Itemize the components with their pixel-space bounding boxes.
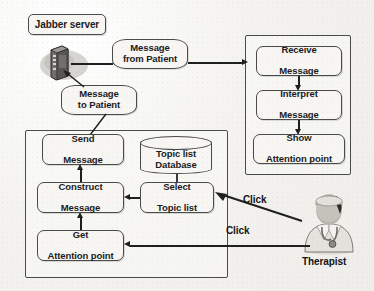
diagram-canvas: Jabber server Message from Patient <box>0 0 374 291</box>
send-message-line1: Send <box>63 134 102 145</box>
click-upper-label: Click <box>243 194 266 205</box>
arrowhead-get-to-construct <box>77 212 83 218</box>
arrowhead-select-to-construct <box>124 194 130 200</box>
message-to-patient-line1: Message <box>79 88 118 99</box>
show-attention-point-line1: Show <box>266 133 332 144</box>
edge-server-to-msgfrom <box>71 63 113 65</box>
edge-click-lower <box>130 245 310 247</box>
receive-message-node: Receive Message <box>256 46 342 76</box>
jabber-server-label: Jabber server <box>35 19 99 30</box>
therapist-label: Therapist <box>302 256 346 267</box>
arrowhead-construct-to-send <box>77 164 83 170</box>
select-topic-list-line2: Topic list <box>157 203 197 214</box>
construct-message-line1: Construct <box>59 182 103 193</box>
select-topic-list-line1: Select <box>157 182 197 193</box>
interpret-message-line1: Interpret <box>279 89 318 100</box>
show-attention-point-line2: Attention point <box>266 154 332 165</box>
interpret-message-node: Interpret Message <box>256 90 342 120</box>
edge-get-to-construct <box>80 217 82 230</box>
arrowhead-click-lower <box>124 241 130 247</box>
get-attention-point-line2: Attention point <box>47 251 113 262</box>
edge-msgto-to-server <box>62 70 86 88</box>
send-message-node: Send Message <box>42 134 124 165</box>
message-from-patient-node: Message from Patient <box>112 39 188 69</box>
edge-construct-to-send <box>80 169 82 182</box>
get-attention-point-node: Get Attention point <box>37 230 124 261</box>
arrowhead-msgfrom-to-receive <box>242 59 248 65</box>
message-to-patient-line2: to Patient <box>78 99 120 110</box>
edge-msgfrom-to-receive <box>188 62 243 64</box>
message-from-patient-line2: from Patient <box>123 53 177 64</box>
jabber-server-label-box: Jabber server <box>28 14 106 35</box>
click-lower-label: Click <box>226 225 249 236</box>
edge-select-to-construct <box>130 197 140 199</box>
select-topic-list-node: Select Topic list <box>140 182 214 213</box>
topic-list-database-node: Topic list Database <box>140 136 212 174</box>
topic-list-database-line1: Topic list <box>156 148 196 159</box>
show-attention-point-node: Show Attention point <box>253 134 345 164</box>
message-from-patient-line1: Message <box>130 42 169 53</box>
topic-list-database-line2: Database <box>155 159 196 170</box>
construct-message-node: Construct Message <box>37 182 124 213</box>
receive-message-line1: Receive <box>279 45 318 56</box>
get-attention-point-line1: Get <box>47 230 113 241</box>
message-to-patient-node: Message to Patient <box>61 85 137 115</box>
